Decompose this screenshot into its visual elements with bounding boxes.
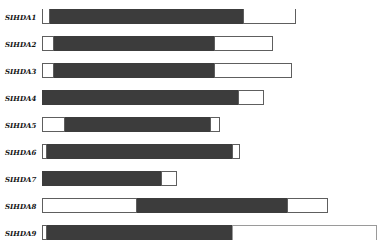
row-label: SIHDA5 xyxy=(5,120,36,129)
bar-row: SIHDA7 xyxy=(0,171,388,186)
dark-filled-segment xyxy=(47,144,232,159)
bar-row: SIHDA8 xyxy=(0,198,388,213)
gene-bar xyxy=(42,9,296,24)
white-segment-left xyxy=(42,9,50,24)
white-segment-right xyxy=(214,63,292,78)
dark-filled-segment xyxy=(54,36,214,51)
white-segment-left xyxy=(42,117,65,132)
white-segment-right xyxy=(238,90,264,105)
dark-filled-segment xyxy=(65,117,210,132)
white-segment-right xyxy=(210,117,220,132)
dark-filled-segment xyxy=(137,198,287,213)
gene-bar xyxy=(42,117,220,132)
row-label: SIHDA1 xyxy=(5,12,36,21)
row-label: SIHDA8 xyxy=(5,201,36,210)
white-segment-right xyxy=(232,225,377,240)
gene-bar xyxy=(42,225,377,240)
gene-bar xyxy=(42,63,292,78)
white-segment-right xyxy=(243,9,296,24)
bar-row: SIHDA6 xyxy=(0,144,388,159)
white-segment-right xyxy=(232,144,240,159)
dark-filled-segment xyxy=(42,171,161,186)
dark-filled-segment xyxy=(42,90,238,105)
gene-bar xyxy=(42,36,273,51)
gene-bar xyxy=(42,90,264,105)
gene-bar xyxy=(42,198,328,213)
white-segment-right xyxy=(287,198,328,213)
white-segment-left xyxy=(42,36,54,51)
white-segment-right xyxy=(161,171,177,186)
white-segment-left xyxy=(42,198,137,213)
gene-bar xyxy=(42,171,177,186)
row-label: SIHDA2 xyxy=(5,39,36,48)
row-label: SIHDA9 xyxy=(5,228,36,237)
white-segment-right xyxy=(214,36,273,51)
bar-row: SIHDA1 xyxy=(0,9,388,24)
row-label: SIHDA6 xyxy=(5,147,36,156)
gene-structure-bar-figure: SIHDA1SIHDA2SIHDA3SIHDA4SIHDA5SIHDA6SIHD… xyxy=(0,0,388,244)
bar-row: SIHDA5 xyxy=(0,117,388,132)
bar-row: SIHDA2 xyxy=(0,36,388,51)
row-label: SIHDA7 xyxy=(5,174,36,183)
bar-row: SIHDA3 xyxy=(0,63,388,78)
bar-row: SIHDA9 xyxy=(0,225,388,240)
row-label: SIHDA3 xyxy=(5,66,36,75)
row-label: SIHDA4 xyxy=(5,93,36,102)
dark-filled-segment xyxy=(54,63,214,78)
white-segment-left xyxy=(42,63,54,78)
gene-bar xyxy=(42,144,240,159)
dark-filled-segment xyxy=(47,225,232,240)
bar-row: SIHDA4 xyxy=(0,90,388,105)
dark-filled-segment xyxy=(50,9,243,24)
